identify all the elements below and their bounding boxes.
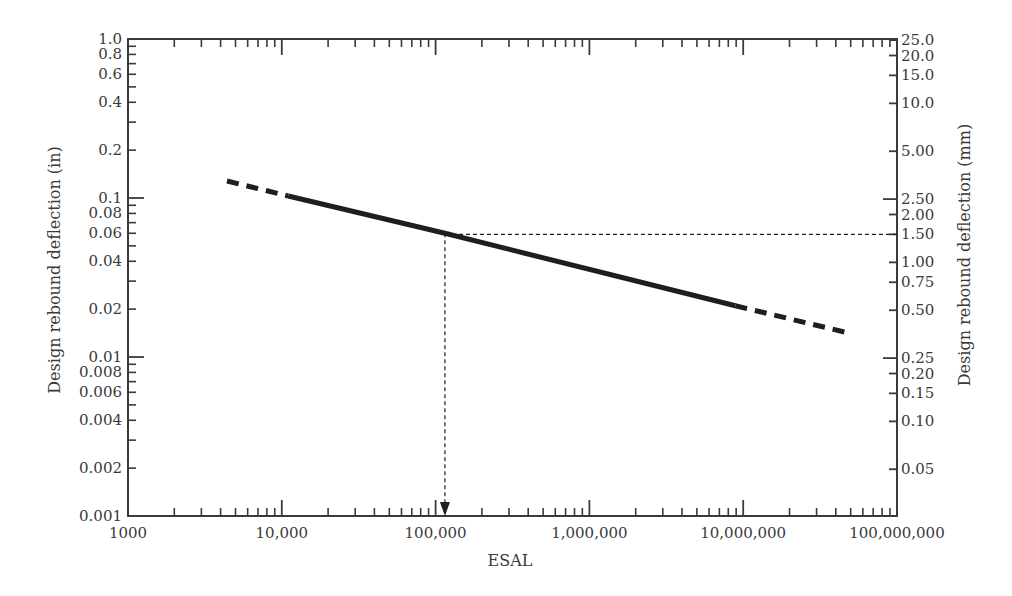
y-left-tick-label: 0.8: [98, 45, 122, 63]
y-left-tick-label: 0.06: [89, 224, 122, 242]
y-left-tick-label: 0.001: [79, 507, 122, 525]
y-right-tick-label: 15.0: [901, 66, 934, 84]
plot-frame: [128, 39, 897, 516]
y-left-tick-label: 0.02: [89, 300, 122, 318]
y-left-tick-label: 0.04: [89, 252, 122, 270]
y-right-tick-label: 0.50: [901, 301, 934, 319]
y-left-tick-label: 0.4: [98, 93, 122, 111]
x-axis-tick-labels: 100010,000100,0001,000,00010,000,000100,…: [109, 524, 945, 542]
y-right-tick-label: 0.20: [901, 365, 934, 383]
arrow-down-icon: [440, 502, 450, 516]
y-left-tick-label: 0.08: [89, 204, 122, 222]
y-right-tick-label: 0.05: [901, 460, 934, 478]
y-right-tick-label: 1.50: [901, 225, 934, 243]
y-right-tick-label: 2.00: [901, 206, 934, 224]
x-tick-label: 1,000,000: [551, 524, 627, 542]
y-left-tick-label: 0.004: [79, 411, 122, 429]
y-right-tick-label: 1.00: [901, 253, 934, 271]
y-left-tick-label: 0.008: [79, 363, 122, 381]
major-ticks: [128, 39, 897, 516]
x-tick-label: 10,000: [256, 524, 309, 542]
y-left-tick-label: 0.6: [98, 65, 122, 83]
y-right-tick-label: 20.0: [901, 47, 934, 65]
y-right-tick-label: 5.00: [901, 142, 934, 160]
chart: 100010,000100,0001,000,00010,000,000100,…: [0, 0, 1012, 596]
x-tick-label: 10,000,000: [700, 524, 786, 542]
guide-lines: [440, 233, 897, 516]
y-right-tick-label: 0.75: [901, 273, 934, 291]
dashed-extrapolation-line: [735, 306, 852, 334]
solid-design-line: [288, 196, 735, 306]
y-axis-right-tick-labels: 25.020.015.010.05.002.502.001.501.000.75…: [901, 31, 934, 478]
x-tick-label: 100,000: [405, 524, 467, 542]
y-right-tick-label: 0.10: [901, 412, 934, 430]
y-right-tick-label: 0.15: [901, 384, 934, 402]
y-left-tick-label: 0.2: [98, 141, 122, 159]
dashed-extrapolation-line: [227, 181, 288, 196]
y-left-tick-label: 0.006: [79, 383, 122, 401]
x-tick-label: 1000: [109, 524, 147, 542]
x-axis-title: ESAL: [488, 551, 533, 570]
minor-ticks: [128, 39, 890, 516]
data-series: [227, 181, 852, 334]
y-right-tick-label: 10.0: [901, 94, 934, 112]
y-axis-left-tick-labels: 1.00.80.60.40.20.10.080.060.040.020.010.…: [79, 30, 122, 525]
y-axis-right-title: Design rebound deflection (mm): [955, 124, 974, 386]
y-axis-left-title: Design rebound deflection (in): [45, 146, 64, 393]
x-tick-label: 100,000,000: [849, 524, 944, 542]
y-left-tick-label: 0.002: [79, 459, 122, 477]
